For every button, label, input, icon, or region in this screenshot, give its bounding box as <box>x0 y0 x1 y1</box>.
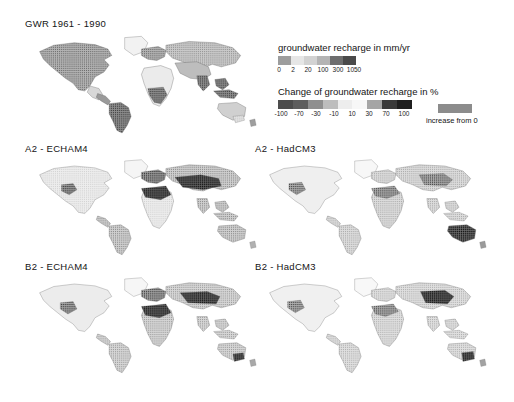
recharge-tick-5: 1050 <box>347 66 361 73</box>
map-b2-echam4 <box>28 274 260 374</box>
change-legend-title: Change of groundwater recharge in % <box>278 86 514 97</box>
recharge-swatch-3 <box>317 56 330 65</box>
change-swatch-3 <box>323 100 338 109</box>
panel-title-a2-echam4: A2 - ECHAM4 <box>25 143 88 154</box>
map-b2-echam4-graphic <box>28 274 260 374</box>
change-swatch-7 <box>382 100 397 109</box>
change-tick-labels: -100 -70 -30 -10 10 30 70 100 <box>278 110 412 121</box>
recharge-legend-title: groundwater recharge in mm/yr <box>278 42 508 53</box>
recharge-tick-1: 2 <box>291 66 295 73</box>
change-swatch-0 <box>278 100 293 109</box>
change-swatch-1 <box>293 100 308 109</box>
recharge-tick-3: 100 <box>318 66 329 73</box>
change-swatch-4 <box>338 100 353 109</box>
change-tick-5: 30 <box>365 110 372 117</box>
panel-title-gwr-baseline: GWR 1961 - 1990 <box>25 18 106 29</box>
recharge-swatch-2 <box>304 56 317 65</box>
change-colorbar <box>278 100 412 109</box>
change-tick-1: -70 <box>294 110 303 117</box>
change-tick-4: 10 <box>348 110 355 117</box>
recharge-swatch-5 <box>343 56 356 65</box>
map-gwr-baseline <box>28 30 260 138</box>
panel-title-a2-hadcm3: A2 - HadCM3 <box>255 143 316 154</box>
change-tick-3: -10 <box>329 110 338 117</box>
recharge-colorbar <box>278 56 356 65</box>
recharge-colorbar-wrap: 0 2 20 100 300 1050 <box>278 56 356 77</box>
map-b2-hadcm3 <box>258 274 490 374</box>
map-b2-hadcm3-graphic <box>258 274 490 374</box>
panel-title-b2-echam4: B2 - ECHAM4 <box>25 261 88 272</box>
change-colorbar-wrap: -100 -70 -30 -10 10 30 70 100 <box>278 100 412 121</box>
map-gwr-baseline-graphic <box>28 30 260 138</box>
change-swatch-5 <box>352 100 367 109</box>
recharge-tick-2: 20 <box>304 66 311 73</box>
panel-title-b2-hadcm3: B2 - HadCM3 <box>255 261 316 272</box>
map-a2-hadcm3 <box>258 156 490 256</box>
recharge-tick-labels: 0 2 20 100 300 1050 <box>278 66 356 77</box>
change-tick-6: 70 <box>382 110 389 117</box>
change-tick-7: 100 <box>399 110 410 117</box>
recharge-swatch-4 <box>330 56 343 65</box>
recharge-legend: groundwater recharge in mm/yr 0 2 20 100… <box>278 42 508 77</box>
map-a2-echam4 <box>28 156 260 256</box>
recharge-tick-4: 300 <box>333 66 344 73</box>
change-swatch-2 <box>308 100 323 109</box>
figure-canvas: GWR 1961 - 1990 A2 - ECHAM4 A2 - HadCM3 … <box>0 0 514 402</box>
change-tick-0: -100 <box>274 110 287 117</box>
recharge-swatch-0 <box>278 56 291 65</box>
change-swatch-8 <box>397 100 412 109</box>
recharge-tick-0: 0 <box>277 66 281 73</box>
increase-from-zero-label: increase from 0 <box>426 116 478 125</box>
change-legend: Change of groundwater recharge in % -100… <box>278 86 514 121</box>
map-a2-hadcm3-graphic <box>258 156 490 256</box>
change-tick-2: -30 <box>311 110 320 117</box>
increase-from-zero-swatch <box>438 104 472 113</box>
recharge-swatch-1 <box>291 56 304 65</box>
map-a2-echam4-graphic <box>28 156 260 256</box>
change-swatch-6 <box>367 100 382 109</box>
